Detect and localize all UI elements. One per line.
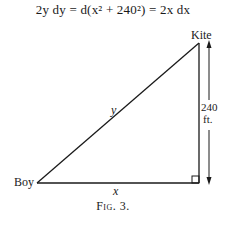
- height-value-label: 240: [201, 101, 218, 113]
- hypotenuse-line: [37, 43, 199, 183]
- kite-label: Kite: [191, 28, 212, 43]
- height-unit-label: ft.: [203, 113, 212, 125]
- right-angle-marker: [192, 176, 199, 183]
- arrow-down-icon: [207, 177, 212, 185]
- base-label: x: [113, 184, 118, 199]
- figure-caption: Fig. 3.: [0, 199, 226, 214]
- boy-label: Boy: [14, 175, 34, 190]
- hypotenuse-label: y: [111, 103, 116, 118]
